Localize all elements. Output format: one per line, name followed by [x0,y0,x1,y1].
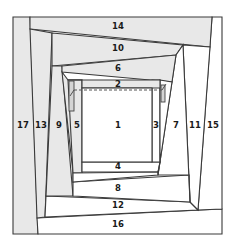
label-4: 4 [115,161,121,171]
paper-piecing-diagram: 14 10 6 2 1 17 13 9 5 3 7 11 15 4 8 12 1… [0,0,234,247]
label-13: 13 [35,120,47,130]
fold-tab-left [69,81,74,111]
label-12: 12 [112,200,124,210]
label-7: 7 [173,120,179,130]
fold-tab-right [161,85,165,102]
label-9: 9 [56,120,62,130]
label-8: 8 [115,183,121,193]
label-3: 3 [153,120,159,130]
label-11: 11 [189,120,201,130]
label-10: 10 [112,43,124,53]
label-16: 16 [112,219,124,229]
label-2: 2 [115,79,121,89]
label-6: 6 [115,63,121,73]
piece-2 [68,80,160,88]
label-5: 5 [74,120,80,130]
piece-4 [82,162,160,172]
label-14: 14 [112,21,124,31]
label-15: 15 [207,120,219,130]
label-1: 1 [115,120,121,130]
label-17: 17 [17,120,29,130]
